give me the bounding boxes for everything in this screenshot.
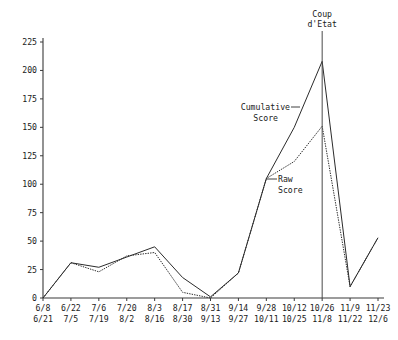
x-tick-label-end: 8/2 [119, 314, 134, 324]
series-raw-score [43, 126, 378, 298]
x-tick-label-end: 11/8 [312, 314, 332, 324]
x-tick-labels-bottom: 6/217/57/198/28/168/309/139/2710/1110/25… [33, 314, 388, 324]
x-tick-label-start: 6/8 [36, 303, 51, 313]
y-tick-label: 75 [27, 208, 37, 218]
coup-event-annotation: Coup d'Etat [307, 9, 337, 298]
coup-label-line1: Coup [312, 9, 332, 19]
x-tick-labels: 6/86/227/67/208/38/178/319/149/2810/1210… [33, 303, 390, 324]
x-tick-label-start: 11/9 [340, 303, 360, 313]
x-tick-label-end: 10/11 [254, 314, 279, 324]
x-tick-label-start: 8/17 [173, 303, 193, 313]
line-chart: 0255075100125150175200225 6/86/227/67/20… [0, 0, 398, 340]
coup-label-line2: d'Etat [307, 19, 337, 29]
x-tick-label-end: 8/16 [145, 314, 165, 324]
cumulative-series-label: Cumulative Score [241, 102, 300, 123]
x-tick-label-start: 6/22 [61, 303, 81, 313]
x-tick-label-start: 11/23 [366, 303, 391, 313]
raw-series-label: Raw Score [266, 174, 303, 195]
raw-label-line1: Raw [278, 174, 293, 184]
x-tick-label-start: 10/26 [310, 303, 335, 313]
y-tick-label: 50 [27, 236, 37, 246]
x-tick-label-start: 10/12 [282, 303, 307, 313]
cumulative-label-line2: Score [253, 113, 278, 123]
y-tick-label: 150 [22, 122, 37, 132]
y-tick-label: 100 [22, 179, 37, 189]
raw-label-line2: Score [278, 185, 303, 195]
y-tick-label: 125 [22, 151, 37, 161]
x-axis [43, 298, 384, 301]
series-group [43, 61, 378, 298]
y-axis: 0255075100125150175200225 [22, 37, 43, 303]
x-tick-label-start: 8/3 [147, 303, 162, 313]
y-tick-label: 0 [32, 293, 37, 303]
y-tick-label: 225 [22, 37, 37, 47]
x-tick-label-end: 9/27 [229, 314, 249, 324]
x-tick-label-end: 12/6 [368, 314, 388, 324]
y-tick-label: 25 [27, 265, 37, 275]
y-tick-label: 175 [22, 94, 37, 104]
x-tick-label-end: 10/25 [282, 314, 307, 324]
x-tick-label-start: 9/14 [229, 303, 249, 313]
x-tick-label-end: 8/30 [173, 314, 193, 324]
x-tick-label-start: 7/20 [117, 303, 137, 313]
y-tick-label: 200 [22, 65, 37, 75]
x-tick-label-end: 11/22 [338, 314, 363, 324]
cumulative-label-line1: Cumulative [241, 102, 290, 112]
x-tick-label-start: 9/28 [256, 303, 276, 313]
x-tick-label-end: 7/19 [89, 314, 109, 324]
chart-container: 0255075100125150175200225 6/86/227/67/20… [0, 0, 398, 340]
x-tick-label-end: 7/5 [64, 314, 79, 324]
x-tick-labels-top: 6/86/227/67/208/38/178/319/149/2810/1210… [36, 303, 391, 313]
x-tick-label-end: 9/13 [201, 314, 221, 324]
x-tick-label-end: 6/21 [33, 314, 53, 324]
series-cumulative-score [43, 61, 378, 298]
x-tick-label-start: 7/6 [91, 303, 106, 313]
x-tick-label-start: 8/31 [201, 303, 221, 313]
y-tick-group: 0255075100125150175200225 [22, 37, 43, 303]
